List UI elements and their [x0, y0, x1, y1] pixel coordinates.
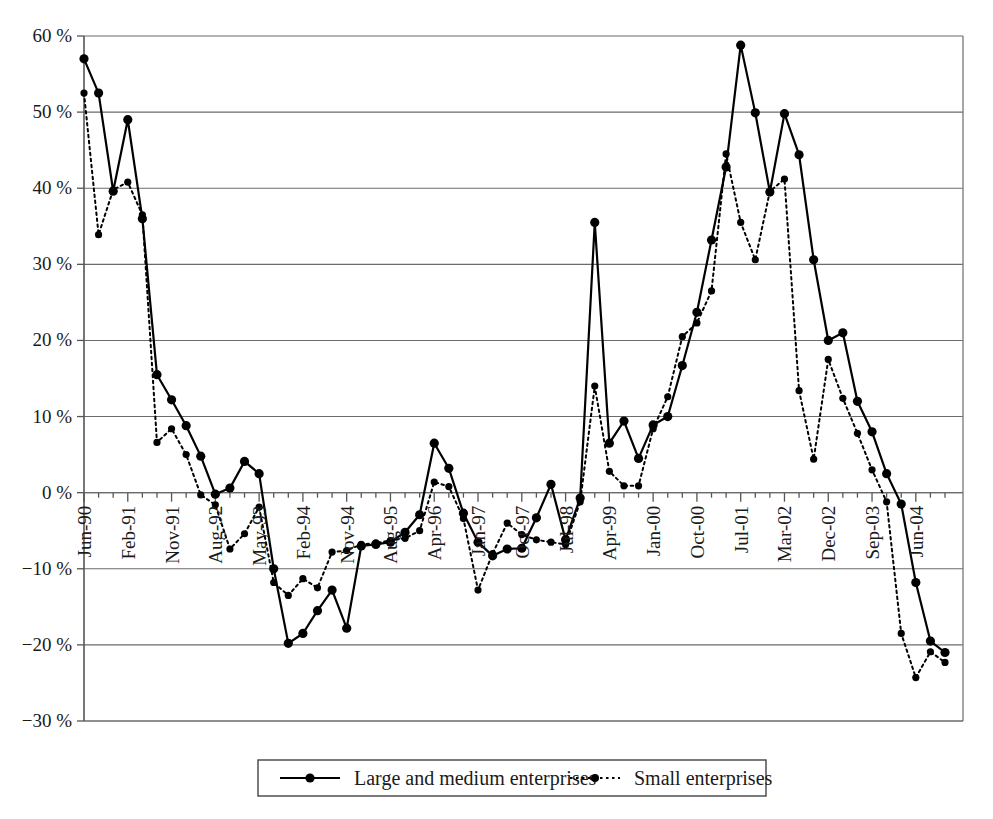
marker-small: [299, 575, 306, 582]
marker-large-medium: [809, 255, 818, 264]
marker-small: [124, 179, 131, 186]
marker-large-medium: [926, 636, 935, 645]
y-axis-label--20: −20 %: [22, 634, 72, 655]
marker-small: [766, 188, 773, 195]
marker-large-medium: [619, 417, 628, 426]
marker-large-medium: [707, 235, 716, 244]
x-axis-label-jan-97: Jan-97: [468, 506, 489, 557]
y-axis-labels: 60 %50 %40 %30 %20 %10 %0 %−10 %−20 %−30…: [22, 25, 72, 731]
marker-large-medium: [240, 457, 249, 466]
marker-large-medium: [342, 624, 351, 633]
y-axis-ticks: [77, 36, 84, 721]
marker-large-medium: [663, 412, 672, 421]
marker-large-medium: [532, 513, 541, 522]
marker-large-medium: [94, 88, 103, 97]
marker-large-medium: [196, 452, 205, 461]
legend-label-small: Small enterprises: [634, 767, 773, 790]
plot-frame: [84, 36, 963, 721]
y-axis-label--30: −30 %: [22, 710, 72, 731]
y-axis-label-40: 40 %: [32, 177, 72, 198]
marker-small: [927, 648, 934, 655]
marker-large-medium: [590, 218, 599, 227]
line-chart: Jun-90Feb-91Nov-91Aug-92May-93Feb-94Nov-…: [0, 0, 993, 819]
marker-large-medium: [780, 109, 789, 118]
chart-container: Jun-90Feb-91Nov-91Aug-92May-93Feb-94Nov-…: [0, 0, 993, 819]
x-axis-label-apr-99: Apr-99: [599, 506, 620, 560]
marker-large-medium: [225, 484, 234, 493]
x-axis-label-oct-00: Oct-00: [687, 506, 708, 559]
marker-large-medium: [853, 397, 862, 406]
marker-large-medium: [444, 464, 453, 473]
marker-small: [489, 550, 496, 557]
x-axis-label-may-93: May-93: [249, 506, 270, 566]
marker-small: [912, 674, 919, 681]
marker-small: [314, 584, 321, 591]
y-axis-label-10: 10 %: [32, 406, 72, 427]
marker-small: [547, 539, 554, 546]
marker-small: [737, 219, 744, 226]
marker-small: [328, 548, 335, 555]
marker-small: [620, 482, 627, 489]
marker-small: [664, 393, 671, 400]
marker-small: [679, 333, 686, 340]
y-axis-label-20: 20 %: [32, 329, 72, 350]
marker-small: [110, 186, 117, 193]
marker-large-medium: [211, 490, 220, 499]
marker-large-medium: [182, 421, 191, 430]
marker-small: [80, 89, 87, 96]
marker-small: [153, 439, 160, 446]
marker-small: [723, 150, 730, 157]
marker-large-medium: [167, 395, 176, 404]
marker-small: [183, 451, 190, 458]
x-axis-label-jun-90: Jun-90: [74, 506, 95, 558]
marker-small: [781, 175, 788, 182]
marker-small: [795, 387, 802, 394]
legend-marker-small: [591, 774, 599, 782]
x-axis-label-jul-98: Jul-98: [556, 506, 577, 553]
marker-large-medium: [298, 629, 307, 638]
marker-small: [358, 541, 365, 548]
x-axis-label-aug-95: Aug-95: [380, 506, 401, 564]
marker-small: [197, 491, 204, 498]
marker-large-medium: [678, 361, 687, 370]
marker-small: [839, 395, 846, 402]
marker-large-medium: [824, 336, 833, 345]
marker-large-medium: [430, 439, 439, 448]
marker-small: [810, 456, 817, 463]
x-axis-label-nov-91: Nov-91: [162, 506, 183, 564]
marker-large-medium: [634, 454, 643, 463]
marker-large-medium: [838, 328, 847, 337]
marker-large-medium: [722, 162, 731, 171]
x-axis-label-sep-03: Sep-03: [862, 506, 883, 560]
marker-small: [504, 520, 511, 527]
marker-small: [226, 545, 233, 552]
marker-large-medium: [123, 115, 132, 124]
x-axis-label-jan-00: Jan-00: [643, 506, 664, 557]
marker-small: [606, 468, 613, 475]
x-axis-label-aug-92: Aug-92: [205, 506, 226, 564]
marker-large-medium: [867, 427, 876, 436]
y-axis-label-30: 30 %: [32, 253, 72, 274]
marker-small: [591, 383, 598, 390]
gridlines-group: [84, 36, 963, 721]
x-axis-label-nov-94: Nov-94: [337, 505, 358, 564]
y-axis-label-50: 50 %: [32, 101, 72, 122]
marker-small: [635, 482, 642, 489]
marker-small: [416, 527, 423, 534]
marker-large-medium: [882, 469, 891, 478]
marker-small: [474, 586, 481, 593]
marker-large-medium: [313, 606, 322, 615]
x-axis-label-dec-02: Dec-02: [818, 506, 839, 562]
marker-small: [139, 211, 146, 218]
x-axis-label-mar-02: Mar-02: [774, 506, 795, 563]
marker-large-medium: [940, 648, 949, 657]
marker-small: [898, 630, 905, 637]
marker-small: [460, 515, 467, 522]
x-axis-label-jul-01: Jul-01: [731, 506, 752, 553]
marker-small: [708, 287, 715, 294]
marker-small: [752, 256, 759, 263]
x-axis-label-apr-96: Apr-96: [424, 506, 445, 560]
marker-small: [95, 231, 102, 238]
y-axis-label--10: −10 %: [22, 558, 72, 579]
marker-small: [868, 466, 875, 473]
